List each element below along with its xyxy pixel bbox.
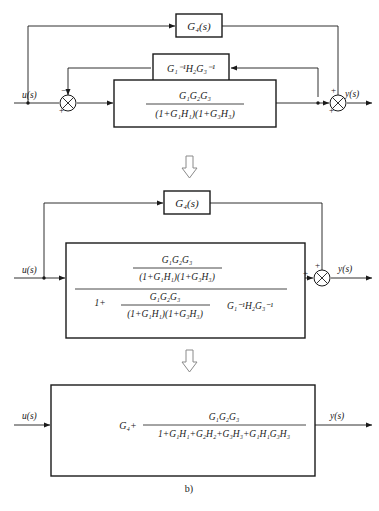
label-input-bottom: u(s)	[22, 411, 37, 422]
main-mid-lower-tail: G₁⁻¹H₂G₃⁻¹	[227, 301, 273, 311]
sign-right-mid-sum-left-plus: +	[303, 268, 308, 278]
main-mid-upper-denominator: (1+G₁H₁)(1+G₃H₃)	[139, 272, 215, 283]
connector-arrow-2	[182, 350, 197, 372]
sign-right-top-sum-left-plus: +	[329, 105, 334, 115]
block-plant-top	[114, 80, 276, 127]
sign-right-top-sum-top-plus: +	[331, 85, 336, 95]
block-inner-feedback-top-label: G₁⁻¹H₂G₃⁻¹	[167, 63, 215, 74]
main-mid-lower-one-plus: 1+	[94, 298, 105, 308]
diagram-top: G₄(s) G₁⁻¹H₂G₃⁻¹ + − u(s) G₁G₂G₃	[14, 14, 372, 127]
figure-canvas: G₄(s) G₁⁻¹H₂G₃⁻¹ + − u(s) G₁G₂G₃	[0, 0, 379, 511]
block-bottom-numerator: G₁G₂G₃	[209, 412, 240, 422]
connector-arrow-1	[182, 156, 197, 178]
label-output-mid: y(s)	[337, 264, 352, 275]
diagram-middle: G₄(s) u(s) G₁G₂G₃ (1+G₁H₁)(1+G₃H₃) 1+ G₁…	[14, 191, 372, 338]
diagram-bottom: u(s) G₄+ G₁G₂G₃ 1+G₁H₁+G₂H₂+G₃H₃+G₁H₁G₃H…	[14, 385, 372, 476]
sign-right-mid-sum-top-plus: +	[315, 260, 320, 270]
block-bottom-denominator: 1+G₁H₁+G₂H₂+G₃H₃+G₁H₁G₃H₃	[158, 429, 290, 439]
sign-left-top-sum-plus: +	[59, 105, 64, 115]
main-mid-lower-numerator: G₁G₂G₃	[150, 292, 181, 302]
label-input-top: u(s)	[22, 90, 37, 101]
figure-caption: b)	[185, 483, 193, 495]
label-output-bottom: y(s)	[329, 411, 344, 422]
junction-dot-feedback-tap-top	[316, 101, 319, 104]
label-output-top: y(s)	[344, 89, 359, 100]
block-g4-mid-label: G₄(s)	[175, 197, 199, 210]
block-g4-top-label: G₄(s)	[187, 20, 211, 33]
main-mid-lower-denominator: (1+G₁H₁)(1+G₃H₃)	[127, 309, 203, 320]
label-input-mid: u(s)	[22, 265, 37, 276]
block-bottom-prefix: G₄+	[119, 420, 136, 431]
plant-top-numerator: G₁G₂G₃	[179, 90, 212, 101]
sign-left-top-sum-minus: −	[61, 85, 66, 95]
block-diagram-svg: G₄(s) G₁⁻¹H₂G₃⁻¹ + − u(s) G₁G₂G₃	[0, 0, 379, 511]
plant-top-denominator: (1+G₁H₁)(1+G₃H₃)	[155, 108, 235, 120]
main-mid-upper-numerator: G₁G₂G₃	[162, 255, 193, 265]
